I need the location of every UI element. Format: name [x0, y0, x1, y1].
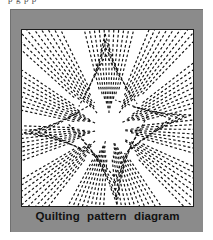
fan-ese-line: [131, 147, 193, 198]
figure-panel: Quilting pattern diagram: [10, 9, 203, 232]
fan-sw-line: [22, 146, 85, 191]
fan-nne-line: [125, 30, 181, 107]
fan-nw-line: [27, 30, 91, 107]
fan-ese-line: [137, 143, 193, 172]
fan-nw-line: [42, 30, 94, 107]
fan-nne-line: [119, 30, 173, 113]
top-cropped-text-line: p g p p: [0, 0, 213, 8]
fan-sw-line: [49, 160, 85, 206]
fan-sw-line: [22, 149, 74, 179]
pattern-line-group: [22, 30, 193, 206]
fan-sw-line: [43, 155, 87, 206]
fan-w-line: [22, 129, 79, 130]
quilting-pattern-svg: [22, 30, 193, 206]
fan-nne-line: [122, 30, 167, 107]
chevron-bottom-center-arm-b: [114, 114, 148, 176]
fan-s-line: [114, 143, 135, 206]
fan-nw-line: [55, 30, 91, 95]
fan-nne-line: [124, 30, 154, 95]
fan-ne-line: [138, 70, 193, 109]
quilting-diagram-box: [21, 29, 194, 207]
fan-nw-line: [48, 30, 92, 101]
fan-wnw-line: [22, 101, 85, 121]
fan-nw-line: [22, 34, 85, 102]
fan-wnw-line: [22, 76, 79, 111]
fan-wnw-line: [22, 82, 85, 116]
fan-sw-line: [22, 144, 90, 198]
chevron-left-mid-arm-a: [45, 102, 95, 132]
fan-ssw-line: [87, 141, 106, 206]
fan-s-line: [115, 143, 140, 206]
fan-e-line: [143, 139, 193, 153]
figure-caption: Quilting pattern diagram: [11, 210, 204, 222]
fan-ese-line: [125, 141, 193, 191]
fan-w-line: [22, 142, 74, 161]
fan-wnw-line: [22, 97, 90, 122]
cropped-text: p g p p: [8, 0, 37, 4]
